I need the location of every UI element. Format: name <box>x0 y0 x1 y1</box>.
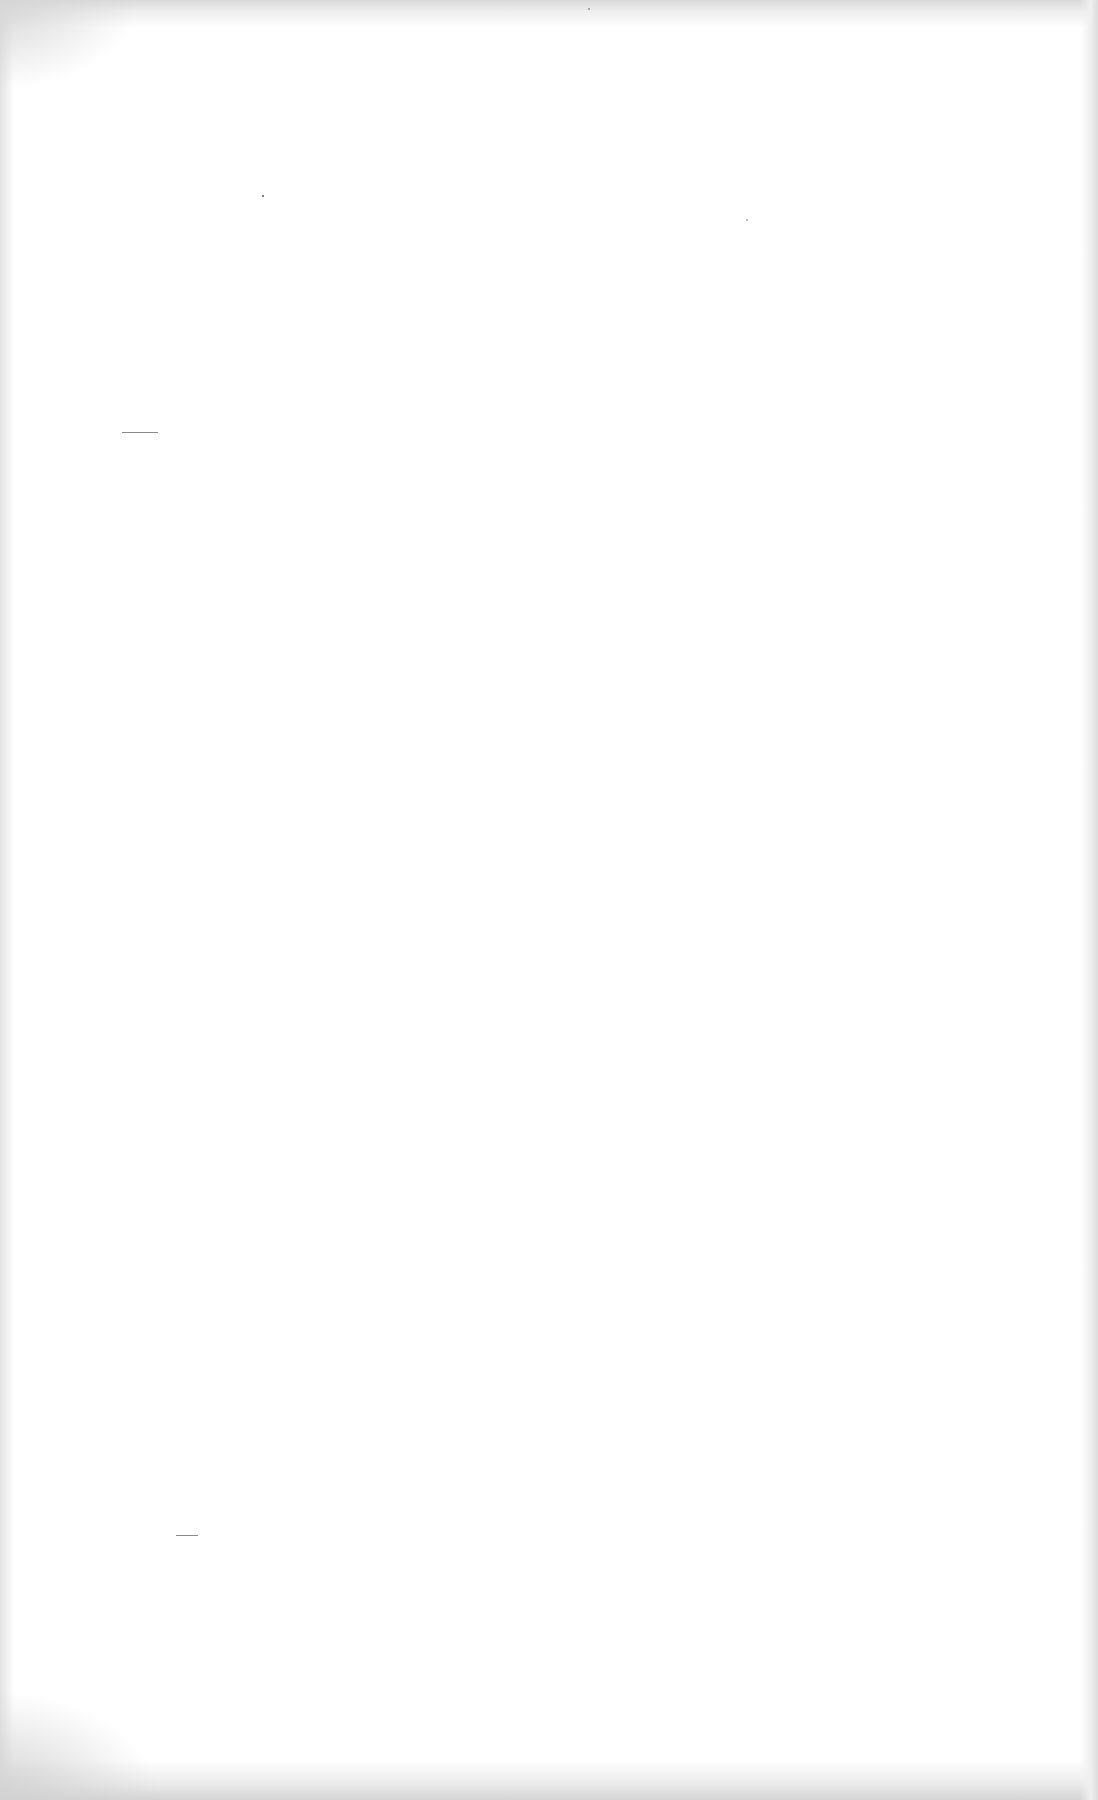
scanned-blank-page <box>0 0 1098 1800</box>
scan-edge-right <box>1080 0 1098 1800</box>
scan-edge-left <box>0 0 14 1800</box>
scan-speck <box>746 219 748 221</box>
scan-shadow-top-left <box>0 0 140 90</box>
scan-speck <box>262 195 264 197</box>
scan-shadow-bottom-left <box>0 1690 160 1800</box>
horizontal-rule-mark <box>122 432 158 433</box>
scan-edge-bottom <box>0 1760 1098 1800</box>
scan-edge-top <box>0 0 1098 28</box>
scan-speck <box>588 8 590 10</box>
horizontal-rule-mark <box>176 1535 198 1536</box>
